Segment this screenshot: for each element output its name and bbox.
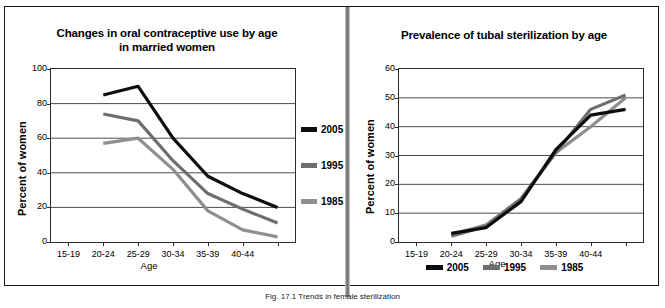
y-tick-mark [395,98,399,99]
y-tick-mark [47,207,51,208]
legend-label-2005: 2005 [447,262,469,273]
plot-area-right [398,68,644,243]
series-line-1995 [103,114,277,223]
y-tick-label: 20 [373,178,395,188]
legend-item-1995[interactable]: 1995 [483,262,526,273]
legend-swatch-1995 [483,265,500,270]
x-tick-mark [591,242,592,246]
series-line-2005 [451,109,625,233]
y-tick-mark [47,104,51,105]
legend-swatch-1995 [301,163,317,168]
x-tick-mark [208,242,209,246]
y-tick-mark [47,138,51,139]
y-tick-mark [47,69,51,70]
panel-tubal-sterilization: Prevalence of tubal sterilization by age… [350,6,659,286]
y-tick-label: 0 [25,236,47,246]
x-tick-mark [278,242,279,246]
y-tick-label: 80 [25,98,47,108]
legend-label-2005: 2005 [321,124,343,135]
chart-title-left: Changes in oral contraceptive use by age… [22,26,312,54]
y-tick-label: 10 [373,207,395,217]
y-tick-label: 0 [373,236,395,246]
line-chart-right [399,69,643,242]
y-tick-mark [395,156,399,157]
y-tick-label: 40 [373,121,395,131]
legend-swatch-1985 [301,199,317,204]
chart-title-left-line1: Changes in oral contraceptive use by age [22,26,312,40]
panel-oral-contraceptive-use: Changes in oral contraceptive use by age… [4,6,346,286]
x-tick-mark [173,242,174,246]
chart-title-right-line1: Prevalence of tubal sterilization by age [356,28,652,42]
x-tick-mark [486,242,487,246]
x-tick-mark [556,242,557,246]
y-axis-label-right: Percent of women [364,119,376,214]
y-tick-label: 50 [373,92,395,102]
figure-caption: Fig. 17.1 Trends in female sterilization [0,292,665,306]
y-tick-label: 20 [25,201,47,211]
legend-item-1995[interactable]: 1995 [301,160,347,171]
y-tick-mark [395,184,399,185]
y-tick-mark [395,213,399,214]
y-tick-mark [395,69,399,70]
x-axis-label-left: Age [114,260,184,271]
legend-item-1985[interactable]: 1985 [301,196,347,207]
x-tick-mark [416,242,417,246]
x-tick-mark [138,242,139,246]
y-tick-label: 100 [25,63,47,73]
x-tick-label: 40-44 [571,249,611,259]
plot-area-left [50,68,296,243]
legend-left: 200519951985 [301,124,347,232]
y-tick-label: 40 [25,167,47,177]
x-tick-mark [451,242,452,246]
legend-label-1995: 1995 [504,262,526,273]
x-tick-mark [243,242,244,246]
series-line-1985 [103,138,277,237]
legend-item-2005[interactable]: 2005 [301,124,347,135]
y-tick-mark [395,127,399,128]
y-tick-label: 30 [373,150,395,160]
legend-label-1985: 1985 [561,262,583,273]
y-tick-label: 60 [373,63,395,73]
x-tick-mark [68,242,69,246]
legend-item-1985[interactable]: 1985 [540,262,583,273]
legend-right-panel: 200519951985 [350,262,659,273]
legend-item-2005[interactable]: 2005 [426,262,469,273]
figure-container: Changes in oral contraceptive use by age… [0,0,665,308]
x-tick-mark [626,242,627,246]
legend-swatch-2005 [301,127,317,132]
series-line-1985 [451,98,625,235]
x-tick-label: 40-44 [223,249,263,259]
line-chart-left [51,69,295,242]
chart-title-right: Prevalence of tubal sterilization by age [356,28,652,42]
x-tick-mark [521,242,522,246]
y-tick-label: 60 [25,132,47,142]
legend-label-1985: 1985 [321,196,343,207]
y-tick-mark [47,242,51,243]
chart-title-left-line2: in married women [22,40,312,54]
legend-label-1995: 1995 [321,160,343,171]
legend-swatch-2005 [426,265,443,270]
x-tick-mark [103,242,104,246]
y-tick-mark [47,173,51,174]
series-line-1995 [451,95,625,236]
legend-swatch-1985 [540,265,557,270]
y-tick-mark [395,242,399,243]
